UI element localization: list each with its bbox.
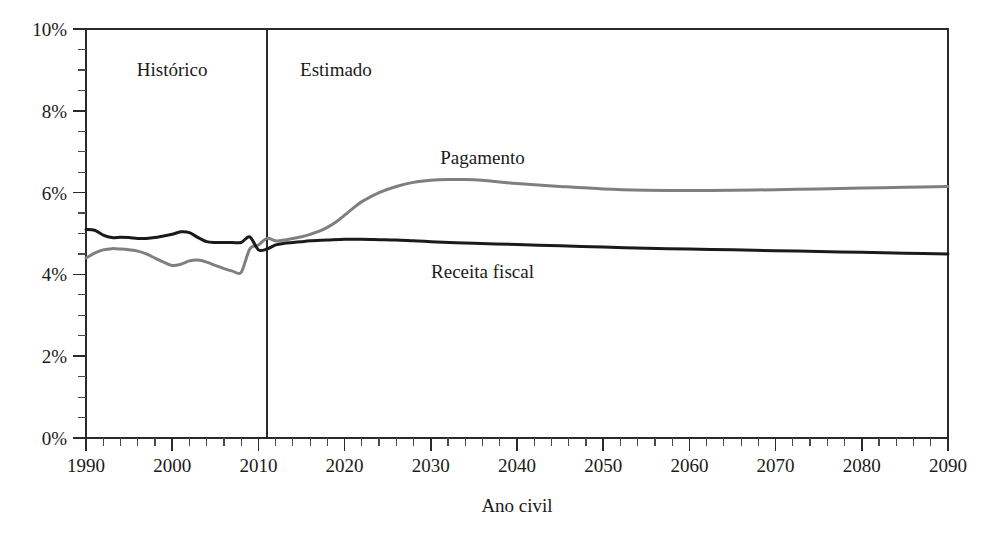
x-tick-label: 2070 xyxy=(757,455,795,476)
series-line-receita-fiscal xyxy=(86,229,948,254)
x-tick-label: 1990 xyxy=(67,455,105,476)
y-tick-label: 6% xyxy=(42,183,68,204)
series-line-pagamento xyxy=(86,179,948,273)
series-lines xyxy=(86,179,948,273)
x-tick-label: 2010 xyxy=(239,455,277,476)
x-tick-label: 2090 xyxy=(929,455,967,476)
y-tick-label: 2% xyxy=(42,346,68,367)
x-axis-major-ticks xyxy=(86,438,948,451)
chart-annotations: HistóricoEstimadoPagamentoReceita fiscal xyxy=(137,59,534,282)
x-axis-title: Ano civil xyxy=(481,495,552,516)
annotation-receita-fiscal: Receita fiscal xyxy=(431,261,534,282)
annotation-historico: Histórico xyxy=(137,59,208,80)
y-axis-minor-ticks xyxy=(78,49,86,417)
x-tick-label: 2020 xyxy=(326,455,364,476)
plot-frame xyxy=(86,29,948,438)
annotation-estimado: Estimado xyxy=(300,59,372,80)
x-axis-tick-labels: 1990200020102020203020402050206020702080… xyxy=(67,455,967,476)
y-tick-label: 10% xyxy=(32,19,67,40)
y-axis-tick-labels: 0%2%4%6%8%10% xyxy=(32,19,67,449)
x-tick-label: 2050 xyxy=(584,455,622,476)
x-tick-label: 2040 xyxy=(498,455,536,476)
x-tick-label: 2080 xyxy=(843,455,881,476)
x-tick-label: 2060 xyxy=(670,455,708,476)
y-tick-label: 0% xyxy=(42,428,68,449)
x-tick-label: 2030 xyxy=(412,455,450,476)
x-tick-label: 2000 xyxy=(153,455,191,476)
y-tick-label: 8% xyxy=(42,101,68,122)
axis-frame xyxy=(86,29,948,438)
chart-figure: 0%2%4%6%8%10% 19902000201020202030204020… xyxy=(0,0,995,537)
y-tick-label: 4% xyxy=(42,264,68,285)
line-chart-canvas: 0%2%4%6%8%10% 19902000201020202030204020… xyxy=(0,0,995,537)
annotation-pagamento: Pagamento xyxy=(440,147,524,168)
